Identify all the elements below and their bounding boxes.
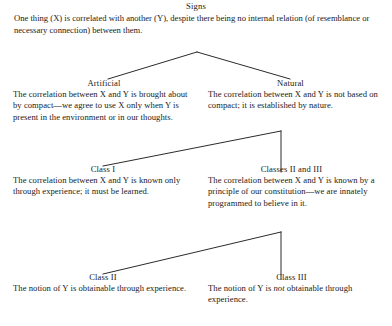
node-class-1-body: The correlation between X and Y is known… (13, 175, 198, 198)
node-class-1: Class I The correlation between X and Y … (13, 164, 198, 198)
sign-taxonomy-diagram: Signs One thing (X) is correlated with a… (0, 0, 392, 326)
node-classes-2-and-3-title: Classes II and III (208, 164, 375, 175)
node-artificial-title: Artificial (9, 78, 199, 89)
connector-signs-right (197, 52, 290, 79)
node-class-2-title: Class II (13, 272, 193, 283)
node-class-2-body: The notion of Y is obtainable through ex… (13, 283, 198, 294)
node-class-3-title: Class III (208, 272, 375, 283)
node-artificial-body: The correlation between X and Y is broug… (13, 89, 193, 123)
node-class-3: Class III The notion of Y is not obtaina… (208, 272, 392, 306)
node-class-3-body-emphasis: not (273, 283, 284, 293)
node-natural-title: Natural (208, 78, 373, 89)
node-class-3-body-prefix: The notion of Y is (208, 283, 273, 293)
node-natural-body: The correlation between X and Y is not b… (208, 89, 390, 112)
connector-classes23-left (103, 232, 281, 274)
node-classes-2-and-3: Classes II and III The correlation betwe… (208, 164, 392, 209)
root-node-body: One thing (X) is correlated with another… (14, 13, 378, 36)
node-class-2: Class II The notion of Y is obtainable t… (13, 272, 198, 294)
connector-natural-left (103, 131, 281, 166)
node-class-3-body: The notion of Y is not obtainable throug… (208, 283, 392, 306)
node-classes-2-and-3-body: The correlation between X and Y is known… (208, 175, 392, 209)
root-node-title: Signs (0, 1, 392, 12)
connector-signs-left (108, 52, 197, 79)
node-artificial: Artificial The correlation between X and… (13, 78, 193, 123)
node-class-1-title: Class I (13, 164, 193, 175)
node-natural: Natural The correlation between X and Y … (208, 78, 390, 112)
